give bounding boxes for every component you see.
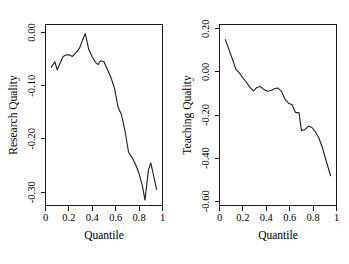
y-tick-labels: 0.20 0.00 -0.20 -0.40 -0.60 [200,20,211,213]
x-tick-label: 0.6 [109,212,122,223]
quantile-regression-figure: 0 0.2 0.4 0.6 0.8 1 0.00 -0.10 -0.20 -0.… [0,0,349,264]
plot-frame [46,25,163,206]
y-tick-label: 0.00 [200,63,211,81]
y-axis-title: Teaching Quality [181,75,194,155]
teaching-quality-plot: 0 0.2 0.4 0.6 0.8 1 0.20 0.00 -0.20 -0.4… [175,0,349,264]
y-axis-ticks [215,29,220,201]
x-tick-label: 0.8 [307,212,320,223]
x-tick-label: 0.8 [133,212,146,223]
x-tick-labels: 0 0.2 0.4 0.6 0.8 1 [43,212,165,223]
x-axis-title: Quantile [258,229,298,241]
research-quality-plot: 0 0.2 0.4 0.6 0.8 1 0.00 -0.10 -0.20 -0.… [0,0,174,264]
y-tick-label: -0.60 [200,190,211,212]
teaching-quality-curve [225,40,330,176]
y-tick-label: -0.30 [26,181,37,203]
y-axis-title: Research Quality [7,75,20,155]
y-tick-label: -0.10 [26,75,37,97]
x-tick-label: 0.2 [62,212,75,223]
y-tick-label: 0.00 [26,23,37,41]
y-tick-label: 0.20 [200,20,211,38]
x-tick-label: 0.2 [236,212,249,223]
x-tick-label: 1 [160,212,165,223]
x-tick-label: 0.4 [260,212,274,223]
x-tick-labels: 0 0.2 0.4 0.6 0.8 1 [217,212,339,223]
y-axis-ticks [41,33,46,193]
y-tick-label: -0.20 [200,104,211,126]
plot-frame [220,25,337,206]
y-tick-label: -0.40 [200,147,211,169]
x-axis-title: Quantile [84,229,124,241]
x-tick-label: 0 [43,212,48,223]
research-quality-curve [51,34,156,201]
x-axis-ticks [220,206,337,211]
x-axis-ticks [46,206,163,211]
panel-teaching-quality: 0 0.2 0.4 0.6 0.8 1 0.20 0.00 -0.20 -0.4… [175,0,349,264]
x-tick-label: 0.6 [283,212,296,223]
y-tick-label: -0.20 [26,128,37,150]
x-tick-label: 0.4 [86,212,100,223]
panel-research-quality: 0 0.2 0.4 0.6 0.8 1 0.00 -0.10 -0.20 -0.… [0,0,174,264]
y-tick-labels: 0.00 -0.10 -0.20 -0.30 [26,23,37,203]
x-tick-label: 0 [217,212,222,223]
x-tick-label: 1 [334,212,339,223]
